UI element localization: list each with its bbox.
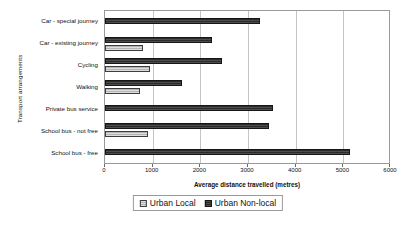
x-axis-tick-label: 1000	[145, 167, 158, 173]
plot-area	[104, 10, 390, 164]
bar-chart: Transport arrangements Car - special jou…	[0, 0, 416, 227]
bar-urban-local	[105, 45, 143, 51]
bar-row	[105, 76, 389, 98]
x-axis-tick-label: 6000	[383, 167, 396, 173]
category-label: School bus - not free	[24, 120, 102, 142]
bar-urban-non-local	[105, 123, 269, 129]
x-axis-tick-label: 2000	[193, 167, 206, 173]
category-label: Cycling	[24, 54, 102, 76]
bar-urban-non-local	[105, 80, 182, 86]
bar-row	[105, 120, 389, 142]
legend-label: Urban Non-local	[215, 198, 276, 208]
category-label: School bus - free	[24, 142, 102, 164]
bar-row	[105, 11, 389, 33]
x-axis-tick-label: 4000	[288, 167, 301, 173]
category-label: Car - existing journey	[24, 32, 102, 54]
bar-row	[105, 141, 389, 163]
category-label: Car - special journey	[24, 10, 102, 32]
legend-swatch-icon	[140, 200, 147, 207]
bar-urban-non-local	[105, 105, 273, 111]
x-axis: 0100020003000400050006000	[104, 164, 390, 176]
bar-urban-non-local	[105, 149, 350, 155]
x-axis-title: Average distance travelled (metres)	[104, 181, 390, 188]
legend-item[interactable]: Urban Non-local	[205, 198, 276, 208]
chart-legend: Urban LocalUrban Non-local	[133, 195, 283, 211]
bar-urban-non-local	[105, 58, 222, 64]
category-label: Walking	[24, 76, 102, 98]
bar-rows	[105, 11, 389, 163]
legend-swatch-icon	[205, 200, 212, 207]
legend-item[interactable]: Urban Local	[140, 198, 196, 208]
x-axis-tick-label: 3000	[240, 167, 253, 173]
bar-urban-local	[105, 88, 140, 94]
bar-row	[105, 98, 389, 120]
bar-row	[105, 54, 389, 76]
category-axis-labels: Car - special journeyCar - existing jour…	[24, 10, 102, 164]
bar-row	[105, 33, 389, 55]
x-axis-tick-label: 5000	[336, 167, 349, 173]
legend-label: Urban Local	[150, 198, 196, 208]
bar-urban-non-local	[105, 37, 212, 43]
bar-urban-local	[105, 131, 148, 137]
category-label: Private bus service	[24, 98, 102, 120]
x-axis-tick-label: 0	[102, 167, 105, 173]
bar-urban-non-local	[105, 18, 260, 24]
bar-urban-local	[105, 66, 150, 72]
